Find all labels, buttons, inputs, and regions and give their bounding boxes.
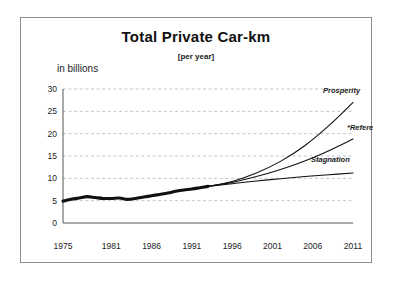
y-tick-label-15: 15 [48, 151, 58, 161]
series-lines [63, 102, 353, 201]
chart-plot: 051015202530 197519811986199119962001200… [21, 18, 373, 264]
series-labels: Prosperity*ReferenceStagnation [311, 86, 373, 164]
x-tick-label-2001: 2001 [263, 241, 282, 251]
y-tick-label-20: 20 [48, 129, 58, 139]
y-axis-ticks: 051015202530 [48, 84, 58, 228]
x-tick-label-2006: 2006 [303, 241, 322, 251]
x-axis-ticks: 19751981198619911996200120062011 [54, 241, 363, 251]
series-line-stagnation [208, 173, 353, 186]
series-line-prosperity [208, 102, 353, 186]
series-label-stagnation: Stagnation [311, 155, 350, 164]
x-tick-label-1981: 1981 [102, 241, 121, 251]
chart-frame: Total Private Car-km [per year] in billi… [20, 17, 372, 263]
series-line-historical [63, 186, 208, 201]
x-tick-label-1991: 1991 [182, 241, 201, 251]
y-tick-label-25: 25 [48, 106, 58, 116]
y-tick-label-10: 10 [48, 173, 58, 183]
series-label-reference: *Reference [347, 123, 373, 132]
series-label-prosperity: Prosperity [323, 86, 361, 95]
x-tick-label-2011: 2011 [344, 241, 363, 251]
gridlines [63, 89, 353, 201]
y-tick-label-5: 5 [52, 196, 57, 206]
y-tick-label-0: 0 [52, 218, 57, 228]
x-tick-label-1996: 1996 [223, 241, 242, 251]
x-tick-label-1986: 1986 [142, 241, 161, 251]
y-tick-label-30: 30 [48, 84, 58, 94]
chart-screenshot: Total Private Car-km [per year] in billi… [0, 0, 402, 285]
x-tick-label-1975: 1975 [54, 241, 73, 251]
